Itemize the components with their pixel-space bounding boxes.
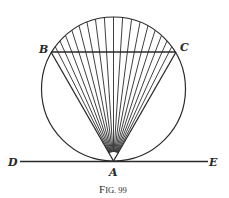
label-C: C <box>180 41 189 54</box>
fan-line <box>60 41 110 153</box>
label-B: B <box>38 43 48 56</box>
line-AC <box>114 52 177 161</box>
label-D: D <box>7 156 18 169</box>
label-A: A <box>108 166 118 179</box>
fan-line <box>117 35 162 152</box>
figure-caption: FIG. 99 <box>99 183 127 195</box>
fan-line <box>117 41 167 153</box>
caption-rest: IG. 99 <box>105 185 127 195</box>
label-E: E <box>208 156 218 169</box>
fan-line <box>65 35 110 152</box>
line-AB <box>51 52 114 161</box>
fan-lines-from-A <box>55 17 172 153</box>
figure-99-diagram: B C A D E FIG. 99 <box>0 0 229 198</box>
